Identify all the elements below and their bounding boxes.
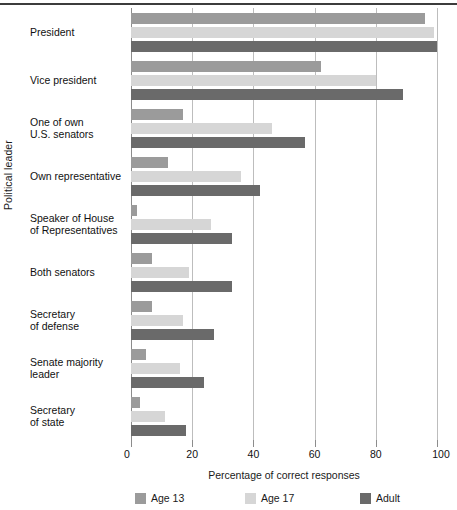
bar-age-13 (131, 397, 140, 408)
bar-age-13 (131, 301, 152, 312)
bar-age-13 (131, 349, 146, 360)
bar-age-17 (131, 123, 272, 134)
category-label: Vice president (30, 74, 130, 87)
x-tick-60 (315, 440, 316, 447)
bar-group (131, 253, 437, 292)
x-tick-label-80: 80 (361, 448, 391, 460)
bar-group (131, 13, 437, 52)
bar-group (131, 301, 437, 340)
bar-age-13 (131, 61, 321, 72)
category-label-line: Secretary (30, 404, 130, 417)
bar-age-17 (131, 75, 376, 86)
bar-age-17 (131, 315, 183, 326)
category-label-line: President (30, 26, 130, 39)
x-tick-label-60: 60 (300, 448, 330, 460)
bar-age-13 (131, 13, 425, 24)
legend-swatch-icon (360, 493, 371, 504)
x-tick-label-100: 100 (426, 448, 456, 460)
category-label-line: One of own (30, 116, 130, 129)
legend-label: Age 17 (261, 492, 294, 504)
category-label-line: Own representative (30, 170, 130, 183)
bar-chart-figure: Political leader 020406080100 Percentage… (0, 0, 457, 510)
category-label: Own representative (30, 170, 130, 183)
plot-area (131, 8, 437, 440)
x-tick-label-20: 20 (177, 448, 207, 460)
bar-group (131, 61, 437, 100)
legend-label: Adult (376, 492, 400, 504)
bar-group (131, 205, 437, 244)
category-label-line: of state (30, 416, 130, 429)
category-label-line: of defense (30, 320, 130, 333)
bar-adult (131, 281, 232, 292)
x-axis-title: Percentage of correct responses (131, 469, 437, 481)
category-label: One of ownU.S. senators (30, 116, 130, 141)
legend-item-adult[interactable]: Adult (360, 492, 400, 504)
x-tick-100 (437, 440, 438, 447)
chart-legend: Age 13Age 17Adult (0, 490, 457, 508)
category-label-line: Senate majority (30, 356, 130, 369)
legend-swatch-icon (135, 493, 146, 504)
bar-age-17 (131, 171, 241, 182)
x-tick-label-0: 0 (112, 448, 142, 460)
bar-adult (131, 377, 204, 388)
bar-age-17 (131, 27, 434, 38)
category-label-line: leader (30, 368, 130, 381)
category-label-line: Secretary (30, 308, 130, 321)
bar-adult (131, 89, 403, 100)
bar-adult (131, 185, 260, 196)
top-rule-divider (0, 3, 457, 5)
bar-group (131, 397, 437, 436)
category-label-line: Both senators (30, 266, 130, 279)
bar-adult (131, 425, 186, 436)
x-tick-80 (376, 440, 377, 447)
bar-age-17 (131, 219, 211, 230)
x-tick-label-40: 40 (238, 448, 268, 460)
bar-age-17 (131, 363, 180, 374)
category-label: Speaker of Houseof Representatives (30, 212, 130, 237)
category-label-line: of Representatives (30, 224, 130, 237)
bar-age-13 (131, 253, 152, 264)
legend-swatch-icon (245, 493, 256, 504)
bar-group (131, 157, 437, 196)
bar-age-13 (131, 109, 183, 120)
legend-item-age-13[interactable]: Age 13 (135, 492, 184, 504)
category-label: Senate majorityleader (30, 356, 130, 381)
bar-adult (131, 137, 305, 148)
bar-adult (131, 41, 437, 52)
category-label-line: U.S. senators (30, 128, 130, 141)
category-label-line: Vice president (30, 74, 130, 87)
gridline-100 (437, 8, 438, 440)
category-label-line: Speaker of House (30, 212, 130, 225)
category-label: Secretaryof defense (30, 308, 130, 333)
y-axis-title: Political leader (2, 90, 14, 210)
bar-age-13 (131, 157, 168, 168)
x-tick-20 (192, 440, 193, 447)
bar-group (131, 109, 437, 148)
category-label: Secretaryof state (30, 404, 130, 429)
bar-group (131, 349, 437, 388)
bar-age-17 (131, 411, 165, 422)
legend-item-age-17[interactable]: Age 17 (245, 492, 294, 504)
bar-age-17 (131, 267, 189, 278)
legend-label: Age 13 (151, 492, 184, 504)
bar-adult (131, 329, 214, 340)
x-tick-0 (131, 440, 132, 447)
category-label: President (30, 26, 130, 39)
bar-age-13 (131, 205, 137, 216)
x-tick-40 (253, 440, 254, 447)
category-label: Both senators (30, 266, 130, 279)
bar-adult (131, 233, 232, 244)
